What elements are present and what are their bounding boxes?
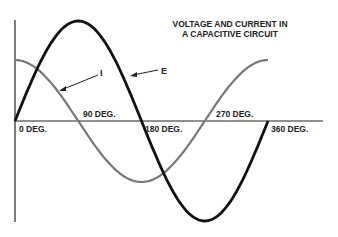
current-pointer	[61, 75, 98, 90]
title-line-1: VOLTAGE AND CURRENT IN	[172, 19, 287, 29]
voltage-label: E	[161, 66, 167, 76]
circuit-diagram: I E VOLTAGE AND CURRENT IN A CAPACITIVE …	[0, 0, 338, 237]
current-label: I	[100, 68, 103, 78]
tick-90-deg: 90 DEG.	[83, 109, 116, 119]
tick-270-deg: 270 DEG.	[216, 109, 253, 119]
tick-360-deg: 360 DEG.	[271, 124, 308, 134]
tick-0-deg: 0 DEG.	[19, 124, 47, 134]
tick-180-deg: 180 DEG.	[145, 124, 182, 134]
title-line-2: A CAPACITIVE CIRCUIT	[182, 29, 279, 39]
voltage-arrowhead-icon	[130, 72, 137, 77]
current-arrowhead-icon	[59, 86, 66, 91]
